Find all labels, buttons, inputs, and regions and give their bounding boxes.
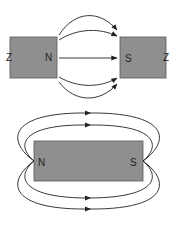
left-magnet-right-label: N [45, 52, 52, 63]
bar-magnet-n-label: N [38, 157, 45, 168]
left-magnet-left-label: Z [6, 52, 12, 63]
right-magnet-right-label: Z [163, 52, 169, 63]
bar-magnet-s-label: S [130, 157, 137, 168]
right-magnet-left-label: S [125, 53, 132, 64]
bar-magnet [34, 141, 143, 181]
field-lines-between [59, 16, 117, 98]
bottom-figure: N S [18, 113, 160, 209]
top-figure: Z N S Z [6, 16, 169, 98]
magnetic-field-diagram: Z N S Z N S [0, 0, 179, 227]
